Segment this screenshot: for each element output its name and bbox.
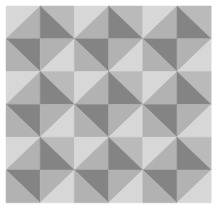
- pattern-cell: [177, 39, 211, 72]
- pattern-cell: [109, 137, 143, 170]
- triangle-pattern: [0, 0, 216, 211]
- pattern-cell: [6, 39, 40, 72]
- pattern-cell: [74, 170, 108, 203]
- pattern-cell: [74, 137, 108, 170]
- pattern-cell: [6, 137, 40, 170]
- pattern-cell: [143, 104, 177, 137]
- pattern-cell: [40, 72, 74, 105]
- pattern-cell: [40, 6, 74, 39]
- pattern-cell: [40, 170, 74, 203]
- pattern-cell: [40, 39, 74, 72]
- pattern-cell: [74, 72, 108, 105]
- pattern-cell: [177, 170, 211, 203]
- pattern-cell: [74, 39, 108, 72]
- pattern-cell: [143, 170, 177, 203]
- pattern-cell: [143, 6, 177, 39]
- pattern-cell: [40, 104, 74, 137]
- pattern-cell: [6, 170, 40, 203]
- pattern-cell: [109, 72, 143, 105]
- pattern-cell: [143, 137, 177, 170]
- pattern-cell: [109, 104, 143, 137]
- pattern-cell: [40, 137, 74, 170]
- pattern-cell: [143, 39, 177, 72]
- pattern-cell: [109, 6, 143, 39]
- pattern-cell: [74, 104, 108, 137]
- pattern-cell: [177, 72, 211, 105]
- pattern-cell: [177, 104, 211, 137]
- pattern-cell: [177, 137, 211, 170]
- pattern-cell: [109, 170, 143, 203]
- pattern-cell: [74, 6, 108, 39]
- pattern-cell: [177, 6, 211, 39]
- pattern-cell: [109, 39, 143, 72]
- pattern-cell: [6, 72, 40, 105]
- pattern-cell: [143, 72, 177, 105]
- pattern-cell: [6, 6, 40, 39]
- pattern-cell: [6, 104, 40, 137]
